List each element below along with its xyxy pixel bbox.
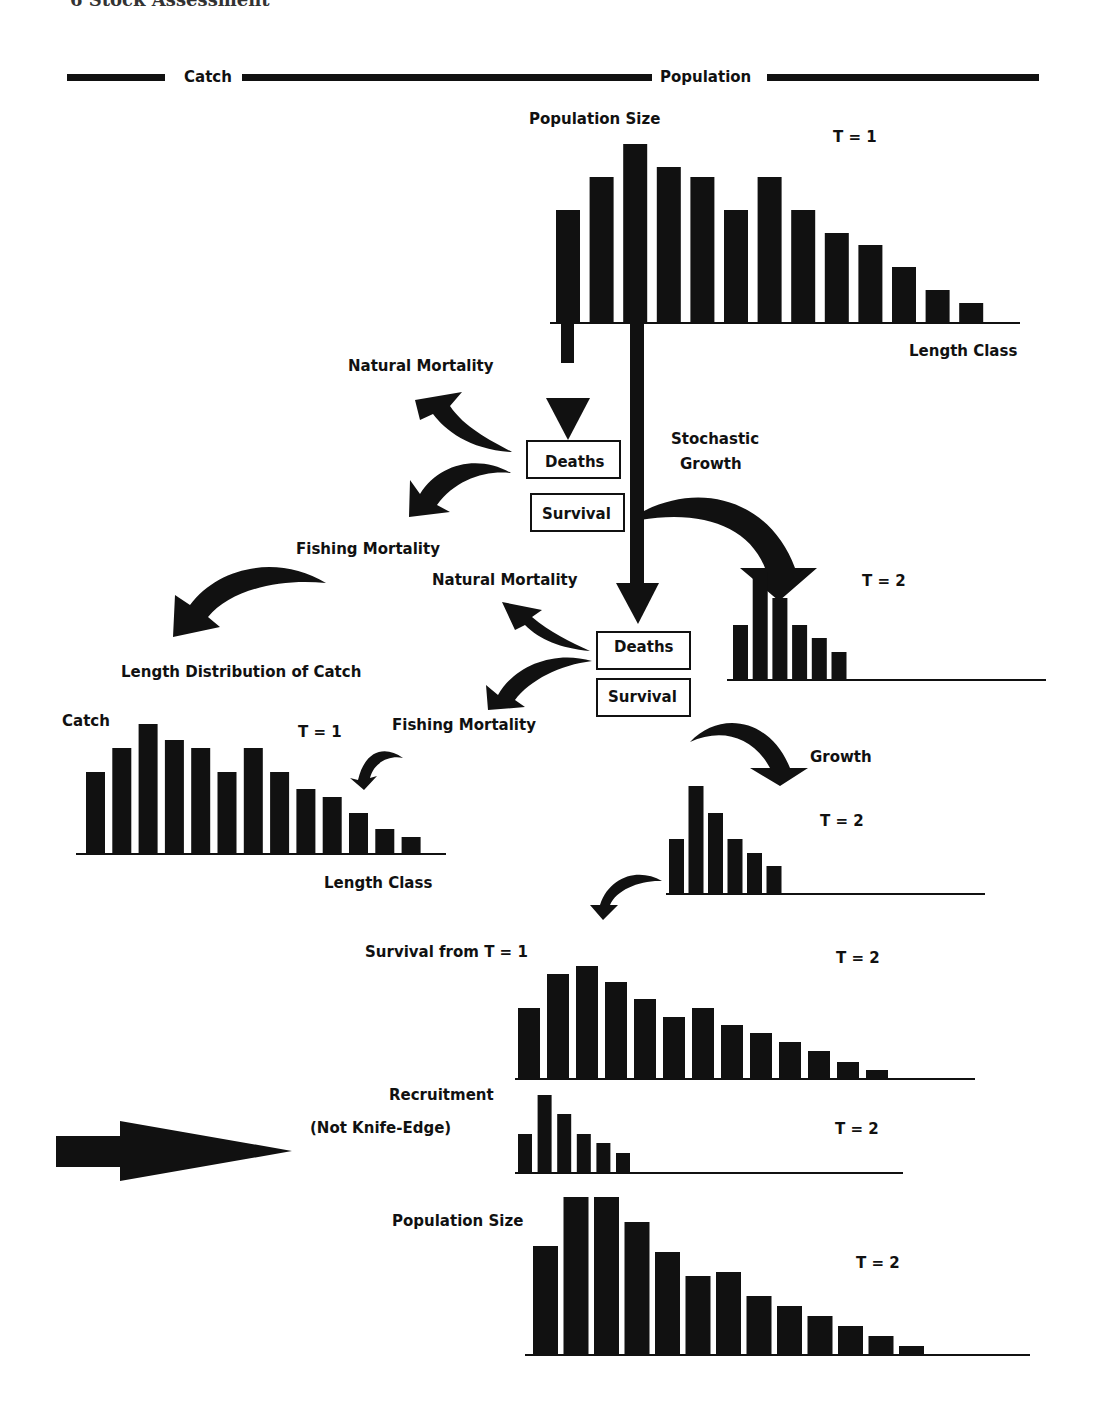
bar	[808, 1051, 830, 1078]
deaths-box-1: Deaths	[527, 441, 620, 478]
bar	[556, 210, 580, 322]
bar	[564, 1197, 589, 1354]
section-bar-right-rule	[767, 74, 1039, 81]
t2-recruitment-label: T = 2	[835, 1120, 879, 1138]
curved-arrow-natural-mortality-1-icon	[415, 392, 512, 452]
t1-label-top: T = 1	[833, 128, 877, 146]
bar	[926, 290, 950, 322]
bar	[767, 866, 782, 893]
curved-arrow-stochastic-growth-icon	[640, 497, 817, 601]
curved-arrow-growth-icon	[690, 723, 808, 786]
bar	[576, 966, 598, 1078]
page-header: 6 Stock Assessment	[70, 0, 270, 10]
bar	[596, 1143, 610, 1172]
bar	[655, 1252, 680, 1354]
bar	[518, 1008, 540, 1078]
bar	[270, 772, 289, 853]
deaths-label-1: Deaths	[545, 453, 605, 471]
curved-arrow-fishing-mortality-2-icon	[486, 657, 592, 710]
bar	[728, 839, 743, 893]
population-size-t2-label: Population Size	[392, 1212, 523, 1230]
deaths-label-2: Deaths	[614, 638, 674, 656]
bar	[812, 638, 827, 679]
bar	[218, 772, 237, 853]
bar	[753, 572, 768, 679]
bar	[577, 1134, 591, 1172]
bar	[669, 839, 684, 893]
recruitment-label-line2: (Not Knife-Edge)	[310, 1119, 451, 1137]
length-distribution-catch-label: Length Distribution of Catch	[121, 663, 361, 681]
bar	[791, 210, 815, 322]
bar	[690, 177, 714, 322]
bar	[747, 1296, 772, 1354]
bar	[547, 974, 569, 1078]
bar	[605, 982, 627, 1078]
bar	[777, 1306, 802, 1354]
t2-growth1-label: T = 2	[862, 572, 906, 590]
bar	[808, 1316, 833, 1354]
x-axis-line	[550, 322, 1020, 324]
stochastic-growth-label-line1: Stochastic	[671, 430, 759, 448]
bar	[594, 1197, 619, 1354]
growth-label: Growth	[810, 748, 872, 766]
bar	[721, 1025, 743, 1078]
bar	[838, 1326, 863, 1354]
bar	[244, 748, 263, 853]
t2-survival-label: T = 2	[836, 949, 880, 967]
bar	[892, 267, 916, 322]
bar	[191, 748, 210, 853]
section-bar-left-rule	[67, 74, 165, 81]
bar	[538, 1095, 552, 1172]
bar	[837, 1062, 859, 1078]
survival-label-1: Survival	[542, 505, 611, 523]
survival-from-t1-chart	[515, 966, 975, 1080]
bar	[733, 625, 748, 679]
t1-catch-label: T = 1	[298, 723, 342, 741]
survival-box-2: Survival	[597, 679, 690, 716]
x-axis-line	[666, 893, 985, 895]
bar	[402, 837, 421, 853]
bar	[657, 167, 681, 322]
curved-arrow-small-catch-icon	[350, 751, 403, 790]
bar	[623, 144, 647, 322]
bar	[724, 210, 748, 322]
x-axis-line	[525, 1354, 1030, 1356]
section-bar-middle-rule	[242, 74, 652, 81]
bar	[590, 177, 614, 322]
large-right-arrow-icon	[56, 1121, 292, 1181]
curved-arrow-to-catch-icon	[173, 567, 326, 637]
catch-length-distribution-t1-chart	[76, 724, 446, 855]
survival-from-t1-label: Survival from T = 1	[365, 943, 528, 961]
bar	[616, 1153, 630, 1172]
survival-label-2: Survival	[608, 688, 677, 706]
bar	[557, 1114, 571, 1172]
bar	[692, 1008, 714, 1078]
curved-arrow-to-survival-icon	[590, 875, 662, 920]
stochastic-growth-label-line2: Growth	[680, 455, 742, 473]
bar	[708, 813, 723, 893]
bar	[634, 999, 656, 1078]
bar	[689, 786, 704, 893]
bar	[772, 598, 787, 679]
bar	[747, 853, 762, 893]
fishing-mortality-label-1: Fishing Mortality	[296, 540, 440, 558]
bar	[139, 724, 158, 853]
bar	[792, 625, 807, 679]
bar	[112, 748, 131, 853]
catch-section-label: Catch	[184, 68, 232, 86]
survival-box-1: Survival	[531, 494, 624, 531]
bar	[832, 652, 847, 679]
down-arrow-icon	[546, 323, 590, 440]
bar	[349, 813, 368, 853]
bar	[866, 1070, 888, 1078]
bar	[86, 772, 105, 853]
bar	[686, 1276, 711, 1354]
curved-arrow-natural-mortality-2-icon	[502, 602, 590, 651]
bar	[858, 245, 882, 322]
bar	[663, 1017, 685, 1078]
t2-growth2-label: T = 2	[820, 812, 864, 830]
bar	[625, 1222, 650, 1354]
natural-mortality-label-2: Natural Mortality	[432, 571, 578, 589]
population-section-label: Population	[660, 68, 751, 86]
bar	[899, 1346, 924, 1354]
